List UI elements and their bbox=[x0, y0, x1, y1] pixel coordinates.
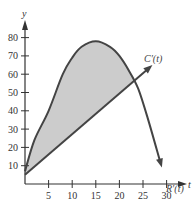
x-tick-label: 25 bbox=[138, 190, 148, 201]
r-prime-label: R′(t) bbox=[165, 183, 184, 195]
y-axis-label: y bbox=[21, 8, 27, 19]
y-tick-label: 80 bbox=[8, 32, 18, 43]
y-tick-label: 10 bbox=[8, 160, 18, 171]
y-tick-label: 70 bbox=[8, 50, 18, 61]
x-tick-label: 20 bbox=[114, 190, 124, 201]
y-tick-label: 30 bbox=[8, 124, 18, 135]
y-axis-arrow-icon bbox=[22, 20, 28, 30]
x-tick-label: 15 bbox=[91, 190, 101, 201]
y-tick-label: 60 bbox=[8, 69, 18, 80]
chart: 510152025301020304050607080 R′(t) C′(t) … bbox=[0, 0, 195, 214]
c-prime-label: C′(t) bbox=[144, 53, 163, 65]
x-tick-label: 10 bbox=[67, 190, 77, 201]
shaded-area bbox=[25, 41, 134, 175]
y-tick-label: 40 bbox=[8, 105, 18, 116]
y-tick-label: 50 bbox=[8, 87, 18, 98]
r-prime-arrowhead-icon bbox=[156, 158, 163, 168]
x-axis-label: t bbox=[188, 179, 191, 190]
x-tick-label: 5 bbox=[46, 190, 51, 201]
y-tick-label: 20 bbox=[8, 142, 18, 153]
